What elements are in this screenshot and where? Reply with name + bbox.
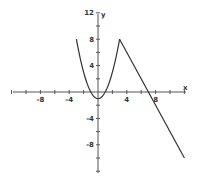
- x-axis-label: x: [183, 84, 188, 92]
- x-tick-label: -4: [65, 96, 73, 104]
- x-tick-label: -8: [37, 96, 45, 104]
- y-axis-label: y: [101, 11, 106, 19]
- series-line: [120, 39, 185, 158]
- function-graph: -8-448 1284-4-8 x y: [0, 0, 200, 182]
- y-tick-label: 8: [89, 36, 94, 44]
- y-tick-label: -8: [86, 141, 94, 149]
- x-tick-label: 4: [124, 96, 129, 104]
- plot-series: [76, 39, 184, 158]
- y-tick-label: 4: [89, 62, 94, 70]
- y-tick-label: -4: [86, 115, 94, 123]
- y-tick-label: 12: [84, 9, 94, 17]
